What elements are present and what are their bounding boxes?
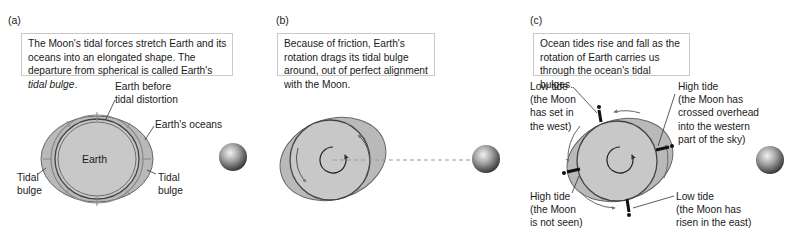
label-high-tide-unseen: High tide(the Moonis not seen) bbox=[530, 190, 583, 230]
person-icon bbox=[597, 105, 601, 122]
moon-icon bbox=[756, 146, 784, 174]
label-tidal-bulge-right: Tidalbulge bbox=[158, 171, 183, 197]
label-tidal-bulge-left: Tidalbulge bbox=[17, 171, 42, 197]
panel-b-earth-diagram bbox=[269, 104, 475, 213]
moon-icon bbox=[219, 143, 247, 171]
panel-b-caption: Because of friction, Earth's rotation dr… bbox=[277, 33, 435, 76]
label-high-tide-overhead: High tide(the Moon hascrossed overheadin… bbox=[678, 80, 759, 146]
panel-c-label: (c) bbox=[530, 14, 542, 26]
person-icon bbox=[627, 199, 631, 217]
label-earth: Earth bbox=[82, 153, 107, 166]
label-low-tide-east: Low tide(the Moon hasrisen in the east) bbox=[676, 190, 751, 230]
panel-c-caption: Ocean tides rise and fall as the rotatio… bbox=[533, 33, 690, 76]
panel-b-label: (b) bbox=[276, 14, 289, 26]
moon-icon bbox=[472, 145, 500, 173]
label-low-tide-west: Low tide(the Moonhas set inthe west) bbox=[530, 80, 576, 133]
label-earths-oceans: Earth's oceans bbox=[155, 118, 222, 131]
label-earth-before: Earth beforetidal distortion bbox=[115, 80, 178, 106]
